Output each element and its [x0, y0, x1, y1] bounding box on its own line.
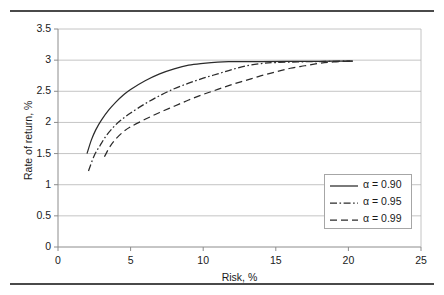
curve-solid — [87, 61, 353, 153]
x-tick-label: 25 — [406, 254, 436, 266]
legend-label: α = 0.95 — [363, 195, 401, 207]
x-tick-label: 15 — [261, 254, 291, 266]
chart-legend[interactable]: α = 0.90α = 0.95α = 0.99 — [324, 174, 412, 229]
y-tick-label: 2.5 — [11, 84, 51, 96]
y-tick-label: 3 — [11, 53, 51, 65]
legend-swatch-solid-icon — [329, 178, 359, 190]
x-axis-title: Risk, % — [180, 271, 300, 283]
curve-dashed — [104, 61, 352, 157]
legend-label: α = 0.90 — [363, 178, 401, 190]
legend-label: α = 0.99 — [363, 212, 401, 224]
y-axis-title: Rate of return, % — [22, 101, 34, 180]
y-tick-label: 0 — [11, 240, 51, 252]
legend-swatch-dashed-icon — [329, 212, 359, 224]
legend-entry[interactable]: α = 0.90 — [325, 175, 411, 192]
legend-entry[interactable]: α = 0.95 — [325, 192, 411, 209]
legend-swatch-dashdot-icon — [329, 195, 359, 207]
x-tick-label: 0 — [43, 254, 73, 266]
y-tick-label: 3.5 — [11, 22, 51, 34]
chart-plot-area — [0, 0, 444, 295]
figure: 00.511.522.533.5 0510152025 Rate of retu… — [0, 0, 444, 295]
x-tick-label: 10 — [188, 254, 218, 266]
y-tick-label: 0.5 — [11, 209, 51, 221]
legend-entry[interactable]: α = 0.99 — [325, 209, 411, 226]
data-curves — [87, 61, 353, 171]
curve-dashdot — [88, 61, 352, 171]
x-tick-label: 20 — [333, 254, 363, 266]
x-tick-label: 5 — [116, 254, 146, 266]
